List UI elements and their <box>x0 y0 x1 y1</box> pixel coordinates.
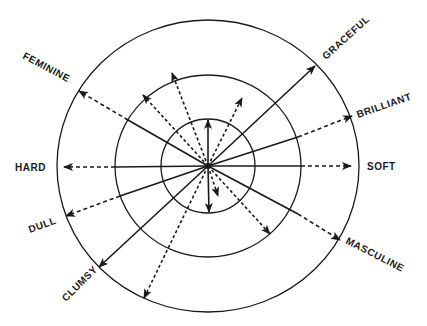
label-brilliant: BRILLIANT <box>355 91 413 120</box>
short-arrow-dotted <box>143 95 208 166</box>
axis-clumsy <box>99 166 208 267</box>
arrow-solid-segment <box>128 120 208 166</box>
label-dull: DULL <box>27 215 58 235</box>
short-arrow-dotted <box>208 166 270 234</box>
arrow-solid-segment <box>115 166 208 167</box>
arrow-dashed-segment <box>298 116 352 137</box>
label-graceful: GRACEFUL <box>320 13 372 61</box>
label-feminine: FEMININE <box>21 50 72 84</box>
arrow-dashed-segment <box>66 196 120 216</box>
axis-masculine <box>208 166 340 240</box>
arrow-solid-segment <box>208 166 298 214</box>
axis-brilliant <box>208 116 352 166</box>
short-arrow-solid <box>208 166 209 212</box>
label-clumsy: CLUMSY <box>60 264 100 304</box>
arrow-solid-segment <box>208 137 298 166</box>
arrow-graceful <box>208 66 315 166</box>
semantic-differential-diagram: GRACEFULBRILLIANTSOFTMASCULINECLUMSYDULL… <box>0 0 427 326</box>
short-arrow-dotted <box>208 98 242 166</box>
axis-graceful <box>208 66 315 166</box>
short-arrow-dotted <box>144 166 208 298</box>
arrow-clumsy <box>99 166 208 267</box>
axis-labels: GRACEFULBRILLIANTSOFTMASCULINECLUMSYDULL… <box>15 13 413 303</box>
axis-feminine <box>79 91 208 166</box>
label-hard: HARD <box>15 162 46 173</box>
axis-hard <box>64 166 208 167</box>
label-masculine: MASCULINE <box>344 235 406 274</box>
arrow-dashed-segment <box>79 91 128 120</box>
arrow-dashed-segment <box>298 214 340 240</box>
label-soft: SOFT <box>367 161 396 172</box>
